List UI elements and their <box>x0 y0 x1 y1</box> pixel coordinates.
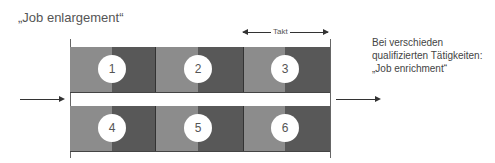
takt-arrow: Takt <box>243 32 328 33</box>
side-note: Bei verschieden qualifizierten Tätigkeit… <box>372 36 495 75</box>
arrow-right-head-icon <box>323 29 329 35</box>
band-border <box>70 151 330 152</box>
station-2: 2 <box>184 55 212 83</box>
station-divider <box>155 47 156 92</box>
diagram-title: „Job enlargement“ <box>18 10 124 25</box>
side-note-line-2: qualifizierten Tätigkeiten: <box>372 49 495 62</box>
station-4: 4 <box>98 114 126 142</box>
input-arrow <box>20 99 63 100</box>
takt-label: Takt <box>271 26 290 37</box>
station-divider <box>155 106 156 151</box>
right-boundary-line <box>330 39 331 158</box>
output-arrow <box>336 99 379 100</box>
arrow-left-head-icon <box>242 29 248 35</box>
station-divider <box>243 106 244 151</box>
station-5: 5 <box>184 114 212 142</box>
station-3: 3 <box>271 55 299 83</box>
station-divider <box>243 47 244 92</box>
bottom-line-band: 4 5 6 <box>70 106 330 151</box>
top-line-band: 1 2 3 <box>70 47 330 92</box>
arrow-head-icon <box>59 96 65 102</box>
station-1: 1 <box>98 55 126 83</box>
side-note-line-1: Bei verschieden <box>372 36 495 49</box>
band-border <box>70 92 330 93</box>
station-6: 6 <box>271 114 299 142</box>
arrow-head-icon <box>375 96 381 102</box>
side-note-line-3: „Job enrichment“ <box>372 62 495 75</box>
